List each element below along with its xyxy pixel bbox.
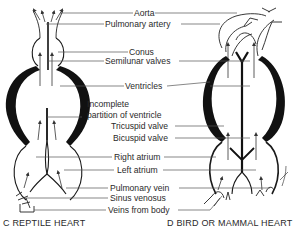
- mammal-heart: [203, 8, 288, 206]
- label-incomplete-partition-1: Incomplete: [87, 99, 129, 109]
- label-ventricles: Ventricles: [125, 81, 162, 91]
- label-bicuspid-valve: Bicuspid valve: [113, 133, 168, 143]
- label-semilunar-valves: Semilunar valves: [105, 56, 170, 66]
- label-right-atrium: Right atrium: [114, 152, 160, 162]
- heart-comparison-diagram: Aorta Pulmonary artery Conus Semilunar v…: [0, 0, 295, 229]
- label-incomplete-partition-2: partition of ventricle: [87, 110, 162, 120]
- label-tricuspid-valve: Tricuspid valve: [111, 121, 168, 131]
- label-pulmonary-artery: Pulmonary artery: [105, 19, 171, 29]
- label-pulmonary-vein: Pulmonary vein: [110, 183, 169, 193]
- caption-bird-mammal-heart: D BIRD OR MAMMAL HEART: [167, 218, 293, 228]
- label-aorta: Aorta: [134, 8, 155, 18]
- reptile-heart: [6, 10, 90, 212]
- label-sinus-venosus: Sinus venosus: [110, 193, 166, 203]
- label-veins-from-body: Veins from body: [108, 205, 170, 215]
- caption-reptile-heart: C REPTILE HEART: [3, 218, 86, 228]
- label-left-atrium: Left atrium: [117, 165, 158, 175]
